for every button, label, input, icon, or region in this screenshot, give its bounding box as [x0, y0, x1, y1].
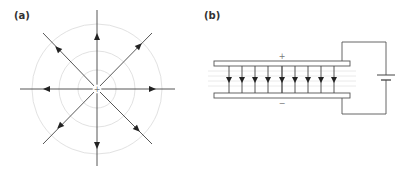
- panel-label-a: (a): [14, 10, 30, 21]
- arrow-icon: [305, 77, 311, 83]
- battery-icon: [377, 75, 395, 80]
- circuit-wire-top: [342, 42, 386, 75]
- field-line-up-right: [97, 33, 152, 89]
- arrow-icon: [239, 77, 245, 83]
- arrow-icon: [265, 77, 271, 83]
- top-plate-sign: +: [279, 52, 286, 61]
- arrow-icon: [318, 77, 324, 83]
- panel-b-diagram: + −: [208, 42, 395, 114]
- field-line-down-left: [43, 89, 97, 144]
- top-plate: [214, 61, 350, 66]
- arrow-icon: [43, 86, 50, 92]
- arrow-icon: [94, 33, 100, 40]
- arrow-icon: [252, 77, 258, 83]
- arrow-icon: [94, 142, 100, 149]
- panel-a-diagram: +: [20, 10, 175, 166]
- diagram-canvas: +: [0, 0, 410, 172]
- arrow-icon: [292, 77, 298, 83]
- bottom-plate-sign: −: [279, 99, 286, 108]
- point-charge-sign: +: [94, 85, 101, 94]
- field-line-down-right: [97, 89, 152, 144]
- arrow-icon: [279, 77, 285, 83]
- figure: +: [0, 0, 410, 172]
- field-line-up-left: [43, 33, 97, 89]
- arrow-icon: [149, 86, 156, 92]
- panel-label-b: (b): [204, 10, 220, 21]
- arrow-icon: [226, 77, 232, 83]
- arrow-icon: [331, 77, 337, 83]
- bottom-plate: [214, 93, 350, 98]
